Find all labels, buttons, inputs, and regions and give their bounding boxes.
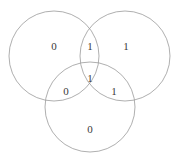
region-label-right-bottom: 1 — [111, 86, 117, 97]
region-label-left-right: 1 — [87, 41, 93, 52]
region-label-left-bottom: 0 — [63, 86, 69, 97]
right-circle — [80, 11, 170, 101]
region-label-bottom-only: 0 — [87, 124, 93, 135]
region-label-right-only: 1 — [123, 41, 129, 52]
region-label-left-only: 0 — [51, 41, 57, 52]
venn-diagram-figure: 0 1 1 1 0 1 0 — [0, 0, 179, 164]
left-circle — [9, 11, 99, 101]
region-label-all-three: 1 — [87, 73, 93, 84]
